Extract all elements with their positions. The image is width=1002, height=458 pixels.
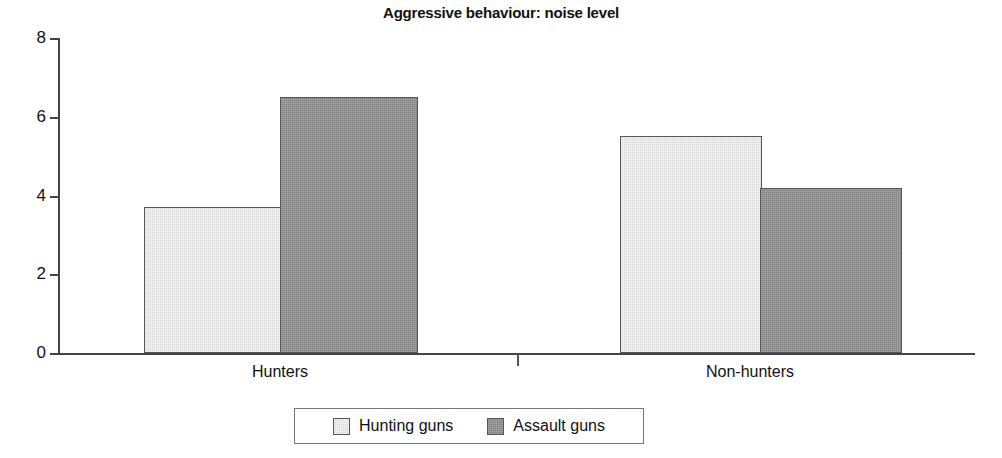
- bar-hunters-hunting-guns[interactable]: [144, 207, 282, 353]
- y-tick-label-6: 6: [6, 108, 46, 125]
- y-tick-label-4: 4: [6, 187, 46, 204]
- plot-area: [58, 38, 975, 353]
- bar-hunters-assault-guns[interactable]: [280, 97, 418, 353]
- legend-item-assault-guns[interactable]: Assault guns: [487, 417, 605, 435]
- bar-non-hunters-hunting-guns[interactable]: [620, 136, 762, 353]
- legend-label-hunting-guns: Hunting guns: [359, 417, 453, 435]
- y-tick-label-2: 2: [6, 265, 46, 282]
- y-tick-label-8: 8: [6, 29, 46, 46]
- legend-item-hunting-guns[interactable]: Hunting guns: [333, 417, 453, 435]
- category-separator-tick: [517, 355, 519, 366]
- y-tick-mark-0: [50, 353, 59, 355]
- category-label-non-hunters: Non-hunters: [650, 363, 850, 381]
- y-tick-mark-4: [50, 196, 59, 198]
- bar-non-hunters-assault-guns[interactable]: [760, 188, 902, 353]
- chart-title: Aggressive behaviour: noise level: [0, 4, 1002, 21]
- y-tick-mark-8: [50, 38, 59, 40]
- bar-chart-figure: Aggressive behaviour: noise level 8 6 4 …: [0, 0, 1002, 458]
- dark-gray-swatch-icon: [487, 418, 504, 435]
- category-label-hunters: Hunters: [180, 363, 380, 381]
- light-gray-swatch-icon: [333, 418, 350, 435]
- chart-legend: Hunting guns Assault guns: [294, 408, 644, 444]
- legend-label-assault-guns: Assault guns: [513, 417, 605, 435]
- y-tick-mark-2: [50, 274, 59, 276]
- y-axis-labels: 8 6 4 2 0: [0, 38, 46, 354]
- y-tick-mark-6: [50, 117, 59, 119]
- y-tick-label-0: 0: [6, 344, 46, 361]
